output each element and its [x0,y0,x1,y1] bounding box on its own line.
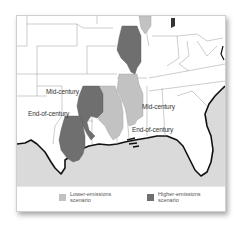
legend-label-higher-emissions: Higher-emissions scenario [158,191,201,203]
annotation-lower-mid-century: Mid-century [142,103,175,110]
map-area: Mid-century End-of-century Mid-century E… [17,16,225,186]
us-southeast-map [17,16,225,186]
legend-label-lower-emissions: Lower-emissions scenario [70,191,111,203]
annotation-higher-mid-century: Mid-century [46,88,79,95]
legend-item-lower-emissions: Lower-emissions scenario [59,191,111,203]
annotation-lower-end-of-century: End-of-century [132,126,173,133]
legend-swatch-higher-emissions [147,194,154,201]
legend-label-line2: scenario [158,197,179,203]
legend-label-line2: scenario [70,197,91,203]
annotation-higher-end-of-century: End-of-century [28,110,69,117]
legend-swatch-lower-emissions [59,194,66,201]
map-figure: Mid-century End-of-century Mid-century E… [16,15,226,212]
legend-item-higher-emissions: Higher-emissions scenario [147,191,201,203]
legend: Lower-emissions scenario Higher-emission… [17,186,225,212]
